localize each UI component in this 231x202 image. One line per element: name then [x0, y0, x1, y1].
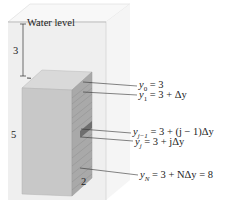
- water-level-label: Water level: [27, 18, 75, 29]
- depth-label: 3: [13, 46, 18, 57]
- block-width-label: 2: [81, 177, 86, 188]
- block-height-label: 5: [11, 130, 16, 141]
- equation-y1: y1 = 3 + Δy: [139, 90, 187, 103]
- equation-yj: yj = 3 + jΔy: [135, 137, 184, 150]
- equation-yN: yN = 3 + NΔy = 8: [140, 170, 213, 183]
- block-front-face: [22, 88, 72, 196]
- tank-side-face: [106, 4, 130, 200]
